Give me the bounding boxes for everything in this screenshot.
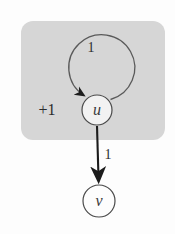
potential-increment-label: +1 — [38, 101, 55, 118]
edge-u-v-weight-label: 1 — [105, 147, 112, 162]
figure-canvas: u v 1 1 +1 — [0, 0, 175, 234]
node-u-label: u — [93, 101, 101, 118]
graph-diagram: u v 1 1 +1 — [0, 0, 175, 234]
self-loop-weight-label: 1 — [88, 40, 95, 55]
node-v-label: v — [95, 192, 103, 209]
